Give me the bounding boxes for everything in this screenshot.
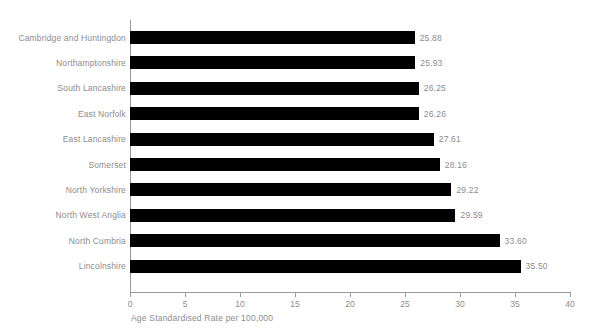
category-label: East Lancashire <box>2 134 126 144</box>
x-tick-label: 15 <box>290 299 299 309</box>
x-tick-mark <box>405 292 406 297</box>
category-label: Lincolnshire <box>2 261 126 271</box>
bar <box>130 209 455 222</box>
x-tick-mark <box>350 292 351 297</box>
bar-row: 25.88 <box>130 31 570 44</box>
plot-area: 25.8825.9326.2526.2627.6128.1629.2229.59… <box>130 20 570 292</box>
category-label: Northamptonshire <box>2 58 126 68</box>
bar-value-label: 28.16 <box>445 160 467 170</box>
x-tick-mark <box>130 292 131 297</box>
category-label: Cambridge and Huntingdon <box>2 33 126 43</box>
bar <box>130 158 440 171</box>
bar <box>130 133 434 146</box>
bar-row: 26.26 <box>130 107 570 120</box>
bar-row: 27.61 <box>130 133 570 146</box>
x-tick-mark <box>295 292 296 297</box>
x-tick-label: 40 <box>565 299 574 309</box>
x-tick-label: 5 <box>183 299 188 309</box>
bar-value-label: 35.50 <box>526 261 548 271</box>
bar-value-label: 26.26 <box>424 109 446 119</box>
bar-row: 25.93 <box>130 56 570 69</box>
bar-chart: Cambridge and HuntingdonNorthamptonshire… <box>0 0 593 335</box>
bar <box>130 107 419 120</box>
bar-value-label: 27.61 <box>439 134 461 144</box>
category-label: Somerset <box>2 160 126 170</box>
x-tick-label: 25 <box>400 299 409 309</box>
bar-value-label: 33.60 <box>505 236 527 246</box>
x-tick-mark <box>185 292 186 297</box>
bar-value-label: 25.88 <box>420 33 442 43</box>
bar-value-label: 26.25 <box>424 83 446 93</box>
bar-value-label: 29.22 <box>456 185 478 195</box>
x-tick-label: 0 <box>128 299 133 309</box>
x-tick-mark <box>240 292 241 297</box>
x-tick-label: 10 <box>235 299 244 309</box>
x-axis-title: Age Standardised Rate per 100,000 <box>131 313 273 323</box>
category-axis-labels: Cambridge and HuntingdonNorthamptonshire… <box>0 0 126 335</box>
bar <box>130 82 419 95</box>
bar <box>130 260 521 273</box>
category-label: North Cumbria <box>2 236 126 246</box>
bar-row: 26.25 <box>130 82 570 95</box>
category-label: North Yorkshire <box>2 185 126 195</box>
bar-row: 28.16 <box>130 158 570 171</box>
category-label: North West Anglia <box>2 210 126 220</box>
bar <box>130 31 415 44</box>
category-label: South Lancashire <box>2 83 126 93</box>
x-tick-mark <box>515 292 516 297</box>
bar <box>130 56 415 69</box>
bar-value-label: 25.93 <box>420 58 442 68</box>
bar <box>130 183 451 196</box>
x-tick-mark <box>460 292 461 297</box>
x-tick-label: 20 <box>345 299 354 309</box>
bar-row: 33.60 <box>130 234 570 247</box>
bar-row: 35.50 <box>130 260 570 273</box>
bar-row: 29.59 <box>130 209 570 222</box>
category-label: East Norfolk <box>2 109 126 119</box>
x-tick-mark <box>570 292 571 297</box>
bar-value-label: 29.59 <box>460 210 482 220</box>
bar-row: 29.22 <box>130 183 570 196</box>
x-tick-label: 35 <box>510 299 519 309</box>
x-tick-label: 30 <box>455 299 464 309</box>
bar <box>130 234 500 247</box>
